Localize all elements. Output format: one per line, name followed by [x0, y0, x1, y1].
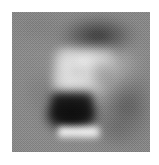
dark-rect-blob-core: [51, 93, 94, 121]
page-root: [0, 0, 159, 165]
bright-bar: [58, 126, 101, 139]
corner-smudge-top-left: [18, 15, 59, 40]
corner-smudge-bottom-right: [98, 118, 134, 146]
grayscale-image-patch: [12, 12, 150, 152]
notch-right: [92, 62, 117, 87]
